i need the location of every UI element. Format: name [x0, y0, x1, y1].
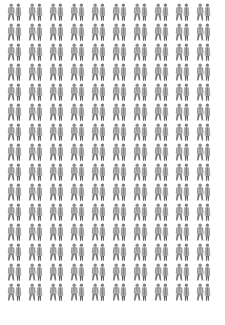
pair-of-people-tile: [49, 123, 70, 143]
pair-of-people-tile: [175, 263, 196, 283]
pair-of-people-tile: [196, 23, 217, 43]
pair-of-people-tile: [154, 283, 175, 303]
pair-of-people-icon: [49, 263, 65, 282]
pair-of-people-tile: [133, 163, 154, 183]
pair-of-people-icon: [28, 23, 44, 42]
pair-of-people-icon: [154, 23, 170, 42]
pair-of-people-icon: [196, 83, 212, 102]
pair-of-people-icon: [196, 203, 212, 222]
pair-of-people-tile: [154, 103, 175, 123]
pair-of-people-icon: [133, 83, 149, 102]
pair-of-people-tile: [175, 23, 196, 43]
pair-of-people-tile: [112, 83, 133, 103]
pair-of-people-tile: [112, 103, 133, 123]
pair-of-people-tile: [112, 203, 133, 223]
pair-of-people-tile: [175, 183, 196, 203]
pair-of-people-icon: [133, 223, 149, 242]
pair-of-people-tile: [133, 143, 154, 163]
pair-of-people-tile: [133, 3, 154, 23]
pair-of-people-icon: [91, 203, 107, 222]
pair-of-people-tile: [28, 283, 49, 303]
pair-of-people-tile: [133, 283, 154, 303]
pair-of-people-icon: [112, 23, 128, 42]
pair-of-people-icon: [28, 63, 44, 82]
pair-of-people-icon: [49, 43, 65, 62]
pair-of-people-tile: [196, 203, 217, 223]
pair-of-people-tile: [91, 123, 112, 143]
pair-of-people-tile: [49, 143, 70, 163]
pair-of-people-tile: [175, 223, 196, 243]
pair-of-people-icon: [196, 143, 212, 162]
pair-of-people-tile: [154, 163, 175, 183]
pair-of-people-tile: [196, 243, 217, 263]
pair-of-people-icon: [133, 143, 149, 162]
pair-of-people-tile: [112, 23, 133, 43]
pair-of-people-tile: [154, 243, 175, 263]
pair-of-people-icon: [112, 123, 128, 142]
pair-of-people-icon: [196, 263, 212, 282]
pair-of-people-icon: [49, 183, 65, 202]
pair-of-people-icon: [112, 83, 128, 102]
pair-of-people-icon: [70, 143, 86, 162]
pair-of-people-tile: [154, 223, 175, 243]
pair-of-people-icon: [112, 223, 128, 242]
pair-of-people-icon: [91, 83, 107, 102]
pair-of-people-icon: [133, 23, 149, 42]
pair-of-people-icon: [49, 103, 65, 122]
pair-of-people-tile: [70, 223, 91, 243]
pair-of-people-icon: [133, 283, 149, 302]
pair-of-people-icon: [7, 63, 23, 82]
pair-of-people-icon: [49, 143, 65, 162]
pair-of-people-icon: [112, 63, 128, 82]
pair-of-people-icon: [196, 123, 212, 142]
pair-of-people-icon: [91, 3, 107, 22]
pair-of-people-icon: [175, 223, 191, 242]
pair-of-people-icon: [154, 203, 170, 222]
pair-of-people-icon: [28, 163, 44, 182]
pair-of-people-tile: [91, 143, 112, 163]
pair-of-people-tile: [112, 3, 133, 23]
pair-of-people-icon: [70, 83, 86, 102]
pair-of-people-tile: [112, 43, 133, 63]
pair-of-people-icon: [112, 243, 128, 262]
pair-of-people-icon: [28, 83, 44, 102]
pair-of-people-tile: [154, 123, 175, 143]
pair-of-people-tile: [175, 143, 196, 163]
pair-of-people-icon: [154, 243, 170, 262]
pair-of-people-icon: [196, 43, 212, 62]
pair-of-people-icon: [28, 183, 44, 202]
pair-of-people-tile: [196, 143, 217, 163]
pair-of-people-tile: [28, 223, 49, 243]
pair-of-people-tile: [133, 103, 154, 123]
pair-of-people-tile: [70, 123, 91, 143]
pair-of-people-tile: [154, 263, 175, 283]
pair-of-people-tile: [154, 83, 175, 103]
pair-of-people-icon: [112, 203, 128, 222]
pair-of-people-tile: [49, 203, 70, 223]
pair-of-people-icon: [7, 103, 23, 122]
pair-of-people-tile: [28, 23, 49, 43]
pair-of-people-icon: [154, 43, 170, 62]
pair-of-people-icon: [154, 123, 170, 142]
pair-of-people-icon: [7, 223, 23, 242]
pair-of-people-tile: [7, 83, 28, 103]
pair-of-people-icon: [28, 43, 44, 62]
pair-of-people-icon: [175, 183, 191, 202]
pair-of-people-icon: [112, 163, 128, 182]
pair-of-people-icon: [28, 203, 44, 222]
pair-of-people-icon: [154, 223, 170, 242]
pair-of-people-tile: [175, 283, 196, 303]
pair-of-people-icon: [133, 123, 149, 142]
pair-of-people-icon: [70, 43, 86, 62]
pair-of-people-tile: [154, 23, 175, 43]
pair-of-people-icon: [70, 203, 86, 222]
pair-of-people-icon: [28, 223, 44, 242]
pair-of-people-icon: [196, 63, 212, 82]
pair-of-people-icon: [175, 23, 191, 42]
pair-of-people-tile: [91, 283, 112, 303]
pair-of-people-tile: [70, 43, 91, 63]
pair-of-people-icon: [7, 243, 23, 262]
pair-of-people-tile: [91, 223, 112, 243]
pair-of-people-tile: [91, 43, 112, 63]
pair-of-people-tile: [7, 263, 28, 283]
